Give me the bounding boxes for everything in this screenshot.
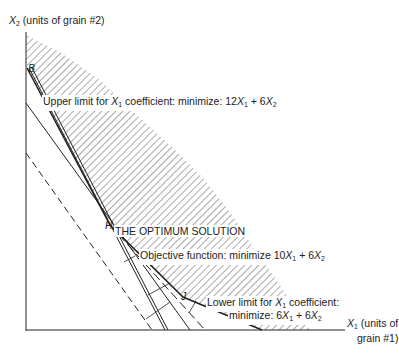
objective-sub2: 2	[321, 255, 325, 262]
lower-limit-prefix: Lower limit for	[207, 296, 275, 308]
x-axis-sub: 1	[354, 323, 358, 330]
lower-limit-line2-sub2: 2	[318, 315, 322, 322]
lower-limit-arrow	[189, 301, 196, 313]
lower-limit-label-line2: minimize: 6X1 + 6X2	[228, 309, 323, 325]
optimum-solution-label: THE OPTIMUM SOLUTION	[114, 225, 246, 237]
upper-limit-sub3: 2	[273, 101, 277, 108]
lower-limit-line2-var2: X	[311, 309, 318, 321]
upper-limit-label: Upper limit for X1 coefficient: minimize…	[42, 95, 278, 111]
point-j-label: J	[180, 290, 187, 302]
upper-limit-var3: X	[266, 95, 273, 107]
y-axis-sub: 2	[16, 20, 20, 27]
upper-limit-prefix: Upper limit for	[43, 95, 111, 107]
x-axis-var: X	[347, 317, 354, 329]
y-axis-var: X	[9, 14, 16, 26]
x-axis-label-line2: grain #1)	[356, 332, 399, 344]
x-axis-text-line1: (units of	[361, 317, 398, 329]
feasible-region	[26, 35, 310, 330]
lower-limit-line2-prefix: minimize: 6	[229, 309, 282, 321]
objective-function-label: Objective function: minimize 10X1 + 6X2	[139, 249, 326, 265]
gap-arrow-2	[148, 283, 170, 295]
x-axis-text-line2: grain #1)	[357, 332, 398, 344]
upper-limit-middle: coefficient: minimize: 12	[122, 95, 237, 107]
point-b-label: B	[27, 62, 36, 74]
upper-limit-var2: X	[237, 95, 244, 107]
y-axis-label: X2 (units of grain #2)	[8, 14, 106, 30]
lower-limit-line2-plus: + 6	[293, 309, 311, 321]
upper-limit-plus: + 6	[248, 95, 266, 107]
objective-plus: + 6	[296, 249, 314, 261]
point-h-label: H	[104, 219, 114, 231]
objective-prefix: Objective function: minimize 10	[140, 249, 285, 261]
lower-limit-suffix: coefficient:	[286, 296, 339, 308]
y-axis-text: (units of grain #2)	[23, 14, 105, 26]
